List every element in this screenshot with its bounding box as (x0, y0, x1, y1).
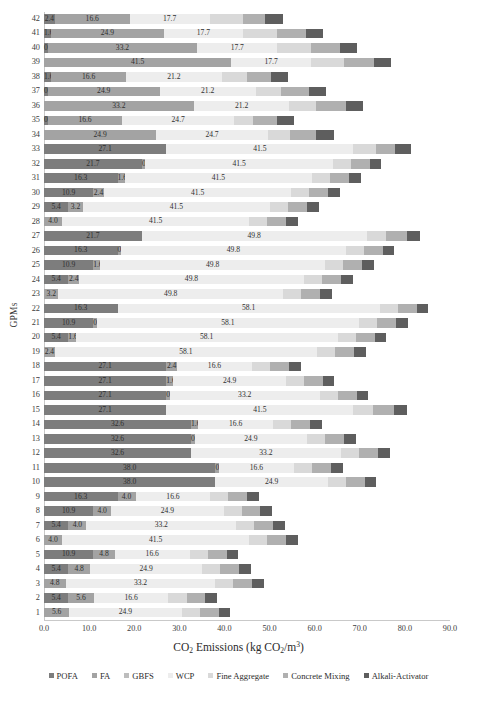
bar-segment[interactable] (341, 448, 359, 458)
bar-segment[interactable] (320, 289, 332, 299)
bar-segment[interactable] (289, 101, 316, 111)
stacked-bar[interactable]: 38.024.9 (44, 477, 376, 487)
stacked-bar[interactable]: 24.924.7 (44, 130, 334, 140)
bar-segment[interactable]: 1.6 (44, 72, 51, 82)
bar-segment[interactable]: 16.6 (198, 420, 273, 430)
bar-segment[interactable] (239, 564, 251, 574)
stacked-bar[interactable]: 0.824.921.2 (44, 87, 326, 97)
bar-segment[interactable]: 4.0 (44, 535, 62, 545)
stacked-bar[interactable]: 3.249.8 (44, 289, 332, 299)
stacked-bar[interactable]: 4.041.5 (44, 535, 298, 545)
bar-segment[interactable] (233, 579, 252, 589)
bar-segment[interactable]: 5.4 (44, 593, 68, 603)
bar-segment[interactable] (187, 593, 206, 603)
bar-segment[interactable] (267, 535, 286, 545)
bar-segment[interactable]: 4.0 (93, 506, 111, 516)
bar-segment[interactable]: 3.2 (68, 202, 82, 212)
bar-segment[interactable] (383, 246, 395, 256)
stacked-bar[interactable]: 41.517.7 (44, 58, 391, 68)
legend-item[interactable]: POFA (49, 670, 78, 681)
bar-segment[interactable]: 27.1 (44, 376, 166, 386)
bar-segment[interactable] (288, 202, 307, 212)
bar-segment[interactable]: 1.6 (166, 376, 173, 386)
stacked-bar[interactable]: 10.90.858.1 (44, 318, 408, 328)
bar-segment[interactable] (224, 506, 242, 516)
stacked-bar[interactable]: 0.816.624.7 (44, 116, 294, 126)
bar-segment[interactable]: 2.4 (166, 362, 177, 372)
stacked-bar[interactable]: 16.34.016.6 (44, 492, 259, 502)
legend-item[interactable]: WCP (168, 670, 195, 681)
bar-segment[interactable]: 5.4 (44, 564, 68, 574)
bar-segment[interactable] (325, 434, 344, 444)
bar-segment[interactable]: 10.9 (44, 188, 93, 198)
bar-segment[interactable]: 32.6 (44, 434, 191, 444)
bar-segment[interactable] (210, 14, 243, 24)
bar-segment[interactable] (270, 362, 289, 372)
bar-segment[interactable]: 16.3 (44, 246, 118, 256)
bar-segment[interactable]: 5.4 (44, 275, 68, 285)
bar-segment[interactable] (338, 333, 356, 343)
bar-segment[interactable] (281, 87, 309, 97)
bar-segment[interactable] (253, 116, 276, 126)
bar-segment[interactable] (236, 521, 254, 531)
bar-segment[interactable]: 41.5 (104, 188, 291, 198)
bar-segment[interactable]: 1.6 (191, 420, 198, 430)
bar-segment[interactable] (341, 275, 353, 285)
bar-segment[interactable] (375, 333, 387, 343)
bar-segment[interactable]: 33.2 (66, 579, 216, 589)
bar-segment[interactable]: 38.0 (44, 477, 215, 487)
stacked-bar[interactable]: 2.458.1 (44, 347, 366, 357)
bar-segment[interactable]: 16.6 (55, 14, 130, 24)
bar-segment[interactable]: 24.9 (111, 506, 223, 516)
bar-segment[interactable] (182, 608, 200, 618)
bar-segment[interactable] (316, 101, 345, 111)
bar-segment[interactable]: 16.6 (115, 550, 190, 560)
stacked-bar[interactable]: 32.633.2 (44, 448, 390, 458)
bar-segment[interactable] (343, 260, 362, 270)
bar-segment[interactable] (364, 246, 383, 256)
bar-segment[interactable] (291, 188, 309, 198)
bar-segment[interactable] (417, 304, 429, 314)
bar-segment[interactable] (312, 463, 331, 473)
bar-segment[interactable] (320, 391, 338, 401)
bar-segment[interactable] (190, 550, 208, 560)
bar-segment[interactable] (356, 333, 375, 343)
bar-segment[interactable]: 41.5 (166, 405, 353, 415)
bar-segment[interactable] (354, 347, 366, 357)
bar-segment[interactable] (290, 130, 316, 140)
stacked-bar[interactable]: 10.94.816.6 (44, 550, 238, 560)
bar-segment[interactable]: 16.6 (51, 72, 126, 82)
bar-segment[interactable]: 58.1 (118, 304, 380, 314)
bar-segment[interactable]: 41.5 (166, 144, 353, 154)
bar-segment[interactable] (271, 72, 288, 82)
bar-segment[interactable]: 24.9 (195, 434, 307, 444)
bar-segment[interactable] (277, 43, 310, 53)
bar-segment[interactable] (168, 593, 186, 603)
bar-segment[interactable]: 58.1 (55, 347, 317, 357)
bar-segment[interactable] (362, 260, 374, 270)
bar-segment[interactable]: 10.9 (44, 318, 93, 328)
bar-segment[interactable]: 5.4 (44, 521, 68, 531)
bar-segment[interactable] (252, 579, 264, 589)
stacked-bar[interactable]: 38.00.816.6 (44, 463, 343, 473)
bar-segment[interactable] (394, 405, 407, 415)
bar-segment[interactable]: 16.3 (44, 492, 118, 502)
bar-segment[interactable]: 2.4 (93, 188, 104, 198)
bar-segment[interactable] (353, 405, 373, 415)
bar-segment[interactable]: 27.1 (44, 391, 166, 401)
bar-segment[interactable] (349, 173, 361, 183)
bar-segment[interactable] (277, 29, 306, 39)
bar-segment[interactable]: 58.1 (97, 318, 359, 328)
bar-segment[interactable] (377, 318, 396, 328)
bar-segment[interactable]: 41.5 (44, 58, 231, 68)
stacked-bar[interactable]: 27.10.833.2 (44, 391, 368, 401)
bar-segment[interactable]: 33.2 (48, 43, 198, 53)
bar-segment[interactable]: 49.8 (79, 275, 304, 285)
stacked-bar[interactable]: 5.624.9 (44, 608, 230, 618)
bar-segment[interactable] (386, 231, 407, 241)
stacked-bar[interactable]: 1.624.917.7 (44, 29, 323, 39)
bar-segment[interactable] (322, 275, 341, 285)
bar-segment[interactable] (205, 593, 217, 603)
bar-segment[interactable] (267, 217, 286, 227)
bar-segment[interactable] (304, 275, 322, 285)
